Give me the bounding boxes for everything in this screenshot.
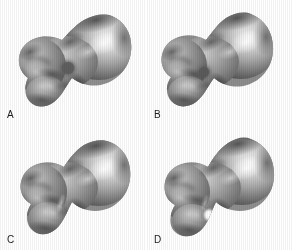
panel-label-c: C <box>7 235 15 245</box>
panel-c: C <box>0 125 146 250</box>
bright-highlight-d <box>204 209 214 221</box>
panel-label-d: D <box>154 235 162 245</box>
panel-label-a: A <box>7 110 14 120</box>
panel-b: B <box>147 0 293 125</box>
bone-surface-render-d <box>147 125 293 250</box>
panel-d: D <box>147 125 293 250</box>
bone-surface-render-a <box>0 0 146 125</box>
bone-surface-render-c <box>0 125 146 250</box>
figure-root: A <box>0 0 293 250</box>
bone-surface-render-b <box>147 0 293 125</box>
panel-a: A <box>0 0 146 125</box>
panel-label-b: B <box>154 110 161 120</box>
